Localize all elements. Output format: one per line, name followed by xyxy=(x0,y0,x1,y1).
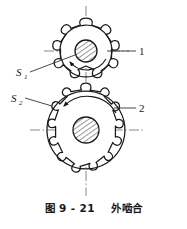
leader-line-surface-2 xyxy=(25,98,52,106)
figure-caption: 图 9 - 21 外啮合 xyxy=(0,200,187,215)
label-surface-2-letter: S xyxy=(11,92,17,104)
label-gear-1-number: 1 xyxy=(139,45,145,57)
figure-external-gear-mesh: S 1 S 2 1 2 图 9 - 21 外啮合 xyxy=(0,0,187,229)
label-surface-2: S 2 xyxy=(11,92,23,107)
label-gear-2-number: 2 xyxy=(139,102,145,114)
label-surface-1-subscript: 1 xyxy=(24,73,28,81)
gear-mesh-drawing: S 1 S 2 1 2 xyxy=(0,0,187,200)
label-surface-1-letter: S xyxy=(16,66,22,78)
label-surface-2-subscript: 2 xyxy=(19,99,23,107)
gear-2-hub-bore xyxy=(73,117,99,143)
label-surface-1: S 1 xyxy=(16,66,28,81)
gear-2 xyxy=(47,83,125,172)
gear-1-hub-bore xyxy=(75,40,97,62)
